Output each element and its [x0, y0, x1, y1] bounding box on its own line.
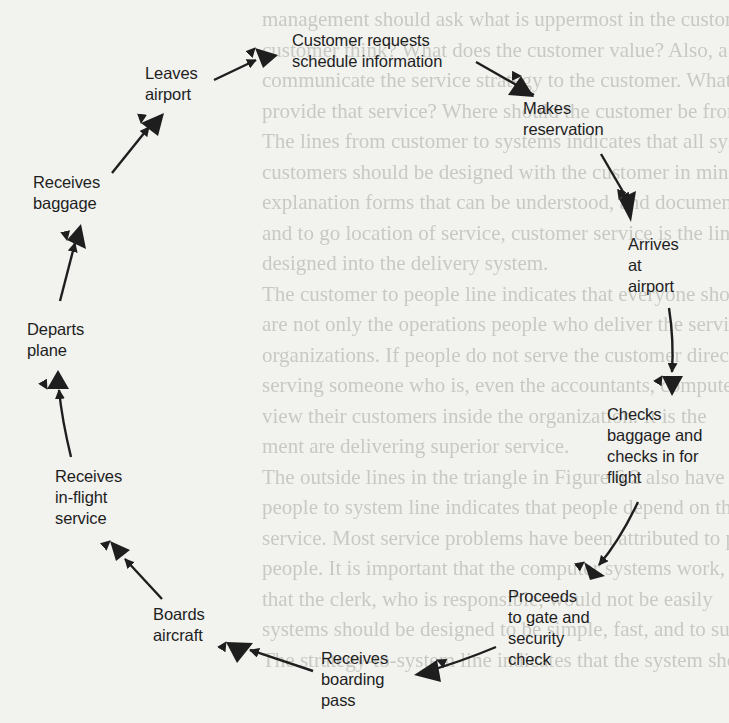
node-boards-aircraft: Boards aircraft — [153, 604, 205, 646]
node-label-line: baggage — [33, 193, 100, 214]
node-proceeds-to-gate: Proceeds to gate and security check — [508, 586, 589, 670]
node-label-line: Departs — [27, 319, 84, 340]
node-makes-reservation: Makes reservation — [523, 98, 604, 140]
node-label-line: checks in for — [607, 446, 702, 467]
node-label-line: in-flight — [55, 487, 122, 508]
arrow-boardingpass-to-boards — [250, 650, 313, 671]
node-label-line: Receives — [33, 172, 100, 193]
arrow-leaves-to-request — [214, 60, 256, 80]
node-label-line: security — [508, 628, 589, 649]
node-arrives-at-airport: Arrives at airport — [628, 234, 679, 297]
node-label-line: Proceeds — [508, 586, 589, 607]
node-label-line: Boards — [153, 604, 205, 625]
node-label-line: Customer requests — [292, 30, 442, 51]
arrow-inflight-to-departs — [59, 390, 71, 457]
arrowhead-leaves-to-request — [255, 48, 278, 68]
node-label-line: Receives — [321, 648, 388, 669]
arrow-boards-to-inflight — [125, 559, 162, 599]
node-label-line: Leaves — [145, 63, 198, 84]
arrow-reservation-to-arrives — [601, 154, 629, 202]
arrowhead-request-to-reservation — [508, 76, 534, 97]
node-label-line: Checks — [607, 404, 702, 425]
node-label-line: pass — [321, 690, 388, 711]
node-label-line: check — [508, 649, 589, 670]
arrowhead-arrives-to-checks — [662, 376, 683, 396]
arrow-baggage-to-leaves — [112, 127, 149, 173]
node-receives-inflight-service: Receives in-flight service — [55, 466, 122, 529]
node-receives-boarding-pass: Receives boarding pass — [321, 648, 388, 711]
arrowhead-boards-to-inflight — [110, 541, 130, 561]
node-customer-requests-schedule: Customer requests schedule information — [292, 30, 442, 72]
node-label-line: at — [628, 255, 679, 276]
node-label-line: airport — [145, 84, 198, 105]
node-receives-baggage: Receives baggage — [33, 172, 100, 214]
arrowhead-checks-to-proceeds — [584, 562, 605, 580]
node-checks-baggage: Checks baggage and checks in for flight — [607, 404, 702, 488]
node-departs-plane: Departs plane — [27, 319, 84, 361]
arrow-arrives-to-checks — [669, 308, 673, 372]
arrowhead-reservation-to-arrives — [619, 191, 636, 222]
arrowhead-inflight-to-departs — [47, 370, 69, 389]
arrow-checks-to-proceeds — [599, 502, 638, 565]
node-label-line: airport — [628, 276, 679, 297]
node-label-line: service — [55, 508, 122, 529]
arrowhead-proceeds-to-boardingpass — [414, 660, 441, 682]
node-label-line: plane — [27, 340, 84, 361]
node-label-line: schedule information — [292, 51, 442, 72]
node-label-line: boarding — [321, 669, 388, 690]
node-leaves-airport: Leaves airport — [145, 63, 198, 105]
node-label-line: reservation — [523, 119, 604, 140]
node-label-line: aircraft — [153, 625, 205, 646]
node-label-line: flight — [607, 467, 702, 488]
arrowhead-boardingpass-to-boards — [226, 642, 253, 663]
cycle-arrows — [0, 0, 729, 723]
arrowhead-departs-to-baggage — [67, 224, 86, 249]
node-label-line: Makes — [523, 98, 604, 119]
arrow-departs-to-baggage — [60, 243, 75, 301]
node-label-line: Arrives — [628, 234, 679, 255]
node-label-line: Receives — [55, 466, 122, 487]
node-label-line: baggage and — [607, 425, 702, 446]
node-label-line: to gate and — [508, 607, 589, 628]
